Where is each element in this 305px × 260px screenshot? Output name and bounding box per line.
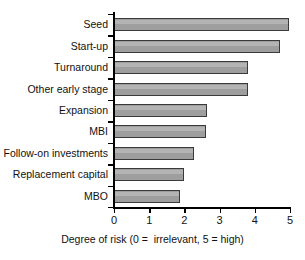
y-axis-tick (108, 57, 113, 58)
category-axis-labels: SeedStart-upTurnaroundOther early stageE… (0, 14, 110, 207)
x-axis-tick (290, 208, 291, 213)
x-axis-tick (184, 208, 185, 213)
x-axis-line (113, 207, 291, 209)
x-axis-tick (255, 208, 256, 213)
x-axis-tick-label: 0 (104, 214, 124, 227)
bar (114, 104, 207, 117)
x-axis-tick-label: 1 (139, 214, 159, 227)
category-label: Follow-on investments (0, 148, 108, 159)
y-axis-tick (108, 121, 113, 122)
category-label: Seed (0, 19, 108, 30)
category-label: Other early stage (0, 84, 108, 95)
bar (114, 18, 289, 31)
bar-highlight (115, 85, 247, 89)
x-axis-tick-label: 2 (174, 214, 194, 227)
bar-highlight (115, 170, 183, 174)
bar (114, 40, 280, 53)
x-axis-title: Degree of risk (0 = irrelevant, 5 = high… (0, 233, 305, 246)
category-label: Replacement capital (0, 169, 108, 180)
y-axis-tick (108, 35, 113, 36)
bar (114, 83, 248, 96)
bar-highlight (115, 42, 279, 46)
category-label: Start-up (0, 41, 108, 52)
category-label: Expansion (0, 105, 108, 116)
y-axis-tick (108, 100, 113, 101)
y-axis-line (113, 12, 115, 208)
x-axis-tick (220, 208, 221, 213)
x-axis-tick (149, 208, 150, 213)
bar (114, 147, 194, 160)
y-axis-tick (108, 14, 113, 15)
plot-area (114, 14, 290, 207)
bar-highlight (115, 149, 193, 153)
bar-highlight (115, 20, 288, 24)
x-axis-tick (114, 208, 115, 213)
bar-highlight (115, 192, 179, 196)
bar (114, 61, 248, 74)
x-axis-tick-label: 4 (245, 214, 265, 227)
y-axis-tick (108, 143, 113, 144)
bar (114, 125, 206, 138)
bar-highlight (115, 106, 206, 110)
x-axis-tick-label: 5 (280, 214, 300, 227)
x-axis-tick-label: 3 (210, 214, 230, 227)
bar-highlight (115, 127, 205, 131)
risk-bar-chart: SeedStart-upTurnaroundOther early stageE… (0, 0, 305, 260)
category-label: Turnaround (0, 62, 108, 73)
bar (114, 190, 180, 203)
bar-highlight (115, 63, 247, 67)
y-axis-tick (108, 164, 113, 165)
y-axis-tick (108, 186, 113, 187)
bar (114, 168, 184, 181)
y-axis-tick (108, 207, 113, 208)
category-label: MBO (0, 191, 108, 202)
category-label: MBI (0, 126, 108, 137)
y-axis-tick (108, 78, 113, 79)
